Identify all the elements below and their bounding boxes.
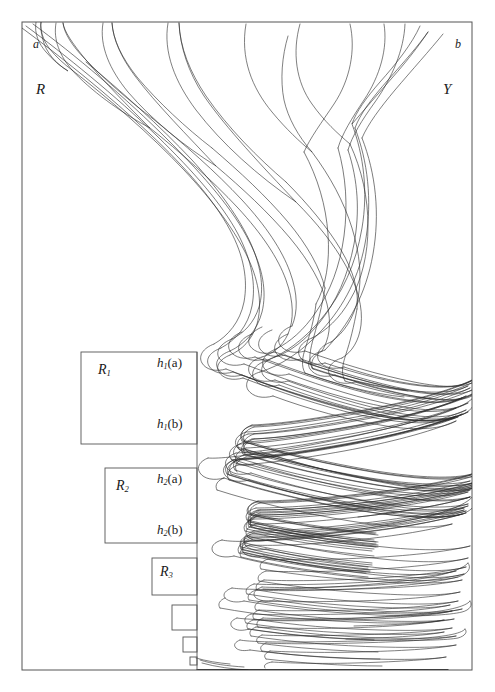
label-a: a xyxy=(33,38,39,50)
top-fingers xyxy=(36,22,443,202)
label-region-R: R xyxy=(36,82,45,97)
region-box-5 xyxy=(183,637,197,652)
label-region-Y: Y xyxy=(443,82,451,97)
label-b: b xyxy=(455,38,461,50)
box-label-R1: R1 xyxy=(98,363,111,378)
region-box-3 xyxy=(152,558,197,595)
figure-frame xyxy=(22,22,472,670)
box-label-R2: R2 xyxy=(116,479,129,494)
fold-level-3 xyxy=(212,440,475,557)
box-label-R3: R3 xyxy=(160,565,173,580)
attractor-strands xyxy=(22,22,476,670)
horseshoe-attractor-figure xyxy=(0,0,495,692)
point-label-h2b: h2(b) xyxy=(157,523,183,538)
point-label-h2a: h2(a) xyxy=(157,472,182,487)
region-box-4 xyxy=(172,605,197,630)
fold-level-6 xyxy=(196,601,466,670)
point-label-h1b: h1(b) xyxy=(157,417,183,432)
descending-bands xyxy=(22,24,376,372)
point-label-h1a: h1(a) xyxy=(157,356,182,371)
region-boxes xyxy=(81,352,197,665)
